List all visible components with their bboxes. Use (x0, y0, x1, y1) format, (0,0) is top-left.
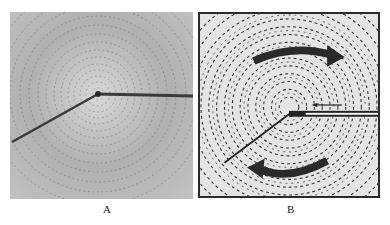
panel-label-b: B (287, 203, 294, 215)
panel-label-a: A (103, 203, 111, 215)
iron-filings-drawing-b (200, 14, 378, 196)
arrow-upper-head-icon (327, 45, 345, 67)
panel-a-photo (10, 12, 193, 199)
wire-b-highlight (306, 113, 378, 115)
wire-a (98, 94, 193, 96)
panel-b-drawing (198, 12, 380, 198)
wire-point-a (95, 91, 101, 97)
iron-filings-photo-a (10, 12, 193, 199)
arrow-lower-icon (259, 161, 327, 174)
